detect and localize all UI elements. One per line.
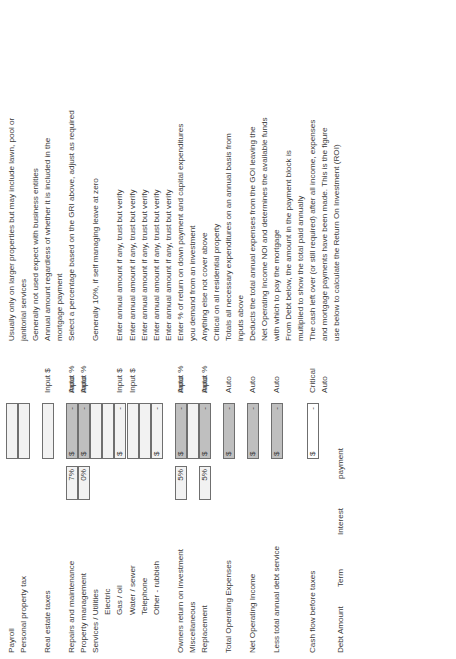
row-description: Generally not used expect with business … — [30, 5, 42, 341]
row-label: Owners return on investment — [175, 503, 187, 653]
row-description: Enter annual amount if any, trust but ve… — [151, 5, 163, 341]
entry-type-label: Critical — [307, 351, 319, 393]
amount-number: - — [199, 407, 211, 410]
entry-type-label: Auto — [223, 351, 235, 393]
entry-type-label: Input $ — [114, 351, 126, 393]
row-description: use below to calculate the Return On Inv… — [331, 5, 343, 341]
row-description: Anything else not cover above — [199, 5, 211, 341]
table-row: mortgage payment — [54, 0, 66, 659]
row-description: Annual amount regardless of whether it i… — [42, 5, 54, 341]
percent-value[interactable]: 5% — [175, 466, 187, 500]
entry-type-label: Input $ — [42, 351, 54, 393]
row-label: Total Operating Expenses — [223, 503, 235, 653]
row-label: Real estate taxes — [42, 503, 54, 653]
amount-number: - — [307, 407, 319, 410]
entry-type-label: Input $ — [127, 351, 139, 393]
row-description: Net Operating Income NOI and determines … — [259, 5, 271, 341]
table-row: TelephoneEnter annual amount if any, tru… — [139, 0, 151, 659]
row-label: Net Operating Income — [247, 503, 259, 653]
table-row: Gas / oil$-Input $Enter annual amount if… — [114, 0, 126, 659]
row-description: mortgage payment — [54, 5, 66, 341]
row-description: Enter % of return on down payment and ca… — [175, 5, 187, 341]
table-row: multiplied to show the total paid annual… — [295, 0, 307, 659]
row-description: Critical on all residential property — [211, 5, 223, 341]
table-row: Property management0%$-Input % — [78, 0, 90, 659]
amount-number: - — [175, 407, 187, 410]
row-description: you demand from an investment — [187, 5, 199, 341]
amount-number: - — [223, 407, 235, 410]
currency-symbol: $ — [247, 451, 259, 456]
currency-symbol: $ — [151, 451, 163, 456]
debt-field-label-1: Term — [335, 569, 347, 587]
row-label: Personal property tax — [18, 503, 30, 653]
table-row: Net Operating Income NOI and determines … — [259, 0, 271, 659]
table-row: PayrollUsually only on larger properties… — [6, 0, 18, 659]
percent-value[interactable]: 0% — [78, 466, 90, 500]
entry-type-label: Auto — [271, 351, 283, 393]
row-description: janitorial services — [18, 5, 30, 341]
rotated-spreadsheet-canvas: PayrollUsually only on larger properties… — [0, 0, 456, 659]
debt-field-label-0: Debt Amount — [335, 606, 347, 653]
amount-number: - — [247, 407, 259, 410]
currency-symbol: $ — [78, 451, 90, 456]
row-description: Enter annual amount if any, trust but ve… — [127, 5, 139, 341]
percent-value[interactable]: 7% — [66, 466, 78, 500]
table-row: Enter annual amount if any, trust but ve… — [163, 0, 175, 659]
currency-symbol: $ — [66, 451, 78, 456]
table-row: Services / UtilitiesGenerally 10%, if se… — [90, 0, 102, 659]
table-row: Real estate taxesInput $Annual amount re… — [42, 0, 54, 659]
auto-marker: Auto — [66, 351, 78, 393]
table-row: From Debt below, the amount in the payme… — [283, 0, 295, 659]
table-row: Miscellaneousyou demand from an investme… — [187, 0, 199, 659]
debt-field-label-2: Interest — [335, 508, 347, 535]
row-description: Select a percentage based on the GRI abo… — [66, 5, 78, 341]
row-label: Services / Utilities — [90, 503, 102, 653]
row-label: Property management — [78, 503, 90, 653]
row-description: with which to pay the mortgage — [271, 5, 283, 341]
currency-symbol: $ — [223, 451, 235, 456]
row-label: Cash flow before taxes — [307, 503, 319, 653]
currency-symbol: $ — [307, 451, 319, 456]
amount-number: - — [271, 407, 283, 410]
table-row: Cash flow before taxes$-CriticalThe cash… — [307, 0, 319, 659]
currency-symbol: $ — [271, 451, 283, 456]
table-row: use below to calculate the Return On Inv… — [331, 0, 343, 659]
entry-type-label: Auto — [319, 351, 331, 393]
currency-symbol: $ — [114, 451, 126, 456]
currency-symbol: $ — [199, 451, 211, 456]
auto-marker: Auto — [78, 351, 90, 393]
row-description: Enter annual amount if any, trust but ve… — [114, 5, 126, 341]
row-description: Generally 10%, if self managing leave at… — [90, 5, 102, 341]
table-row: inputs above — [235, 0, 247, 659]
row-description: Enter annual amount if any, trust but ve… — [163, 5, 175, 341]
row-description: Usually only on larger properties but ma… — [6, 5, 18, 341]
auto-marker: Auto — [175, 351, 187, 393]
currency-symbol: $ — [175, 451, 187, 456]
row-description: Enter annual amount if any, trust but ve… — [139, 5, 151, 341]
row-label: Gas / oil — [114, 465, 126, 615]
row-label: Electric — [102, 465, 114, 615]
auto-marker: Auto — [199, 351, 211, 393]
row-description: The cash left over (or still required) a… — [307, 5, 319, 341]
percent-value[interactable]: 5% — [199, 466, 211, 500]
row-description: multiplied to show the total paid annual… — [295, 5, 307, 341]
table-row: Repairs and maintenance7%$-Input %Select… — [66, 0, 78, 659]
amount-number: - — [78, 407, 90, 410]
amount-number: - — [151, 407, 163, 410]
table-row: Autoand mortgage payments have been made… — [319, 0, 331, 659]
row-label: Less total annual debt service — [271, 503, 283, 653]
row-description: inputs above — [235, 5, 247, 341]
debt-field-label-3: payment — [335, 448, 347, 479]
table-row: Owners return on investment5%$-Input %En… — [175, 0, 187, 659]
table-row: Water / sewerInput $Enter annual amount … — [127, 0, 139, 659]
amount-number: - — [114, 407, 126, 410]
table-row: Replacement5%$-Input %Anything else not … — [199, 0, 211, 659]
table-row: Total Operating Expenses$-AutoTotals all… — [223, 0, 235, 659]
row-label: Replacement — [199, 503, 211, 653]
table-row: Other - rubbish$-Enter annual amount if … — [151, 0, 163, 659]
row-description: Deducts the total annual expenses from t… — [247, 5, 259, 341]
entry-type-label: Auto — [247, 351, 259, 393]
table-row: Less total annual debt service$-Autowith… — [271, 0, 283, 659]
table-row: Critical on all residential property — [211, 0, 223, 659]
row-description: Totals all necessary expenditures on an … — [223, 5, 235, 341]
